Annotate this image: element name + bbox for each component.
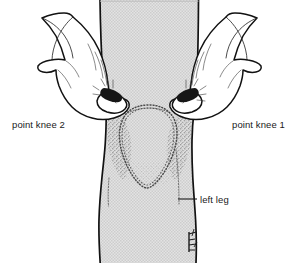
knee-illustration-svg: point knee 2 point knee 1 left leg [0, 0, 302, 263]
label-left-leg: left leg [200, 194, 229, 205]
label-point-knee-1: point knee 1 [232, 119, 285, 130]
illustration-figure: point knee 2 point knee 1 left leg [0, 0, 302, 263]
label-point-knee-2: point knee 2 [12, 119, 65, 130]
